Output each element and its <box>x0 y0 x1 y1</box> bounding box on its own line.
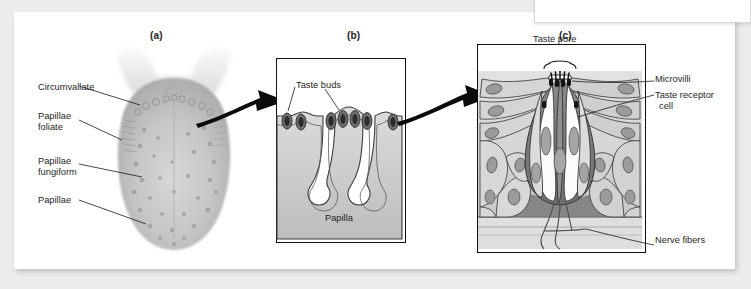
panel-c-frame <box>477 44 646 253</box>
label-papillae-fungiform-line2: fungiform <box>38 167 77 178</box>
label-papillae-foliate: Papillae foliate <box>38 111 71 132</box>
label-microvilli: Microvilli <box>655 74 691 85</box>
panel-a-caption: (a) <box>150 30 163 41</box>
label-taste-receptor-cell: Taste receptor cell <box>655 90 714 111</box>
label-papillae-foliate-line1: Papillae <box>38 111 71 122</box>
label-nerve-fibers: Nerve fibers <box>655 235 705 246</box>
label-papillae-fungiform: Papillae fungiform <box>38 156 77 177</box>
label-papillae: Papillae <box>38 195 71 206</box>
panel-b-caption: (b) <box>347 30 360 41</box>
label-circumvallate: Circumvallate <box>38 82 94 93</box>
label-taste-receptor-cell-line2: cell <box>655 101 714 112</box>
top-right-overlay-panel <box>534 0 751 23</box>
label-taste-buds: Taste buds <box>296 80 341 91</box>
label-papillae-foliate-line2: foliate <box>38 122 71 133</box>
panel-a-tongue-illustration <box>84 42 264 257</box>
label-taste-pore: Taste pore <box>533 34 576 45</box>
label-taste-receptor-cell-line1: Taste receptor <box>655 90 714 101</box>
label-papilla: Papilla <box>325 213 353 224</box>
panel-c-tastebud-illustration <box>478 45 642 249</box>
label-papillae-fungiform-line1: Papillae <box>38 156 77 167</box>
figure-card: (a) <box>14 12 735 269</box>
